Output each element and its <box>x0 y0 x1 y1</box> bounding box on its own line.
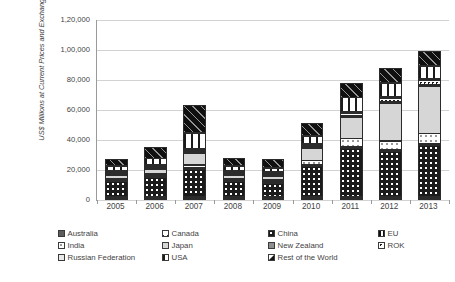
stacked-bar[interactable] <box>144 148 167 200</box>
bar-slot-2012 <box>371 20 410 200</box>
stacked-bar[interactable] <box>418 51 441 200</box>
bar-slot-2009 <box>253 20 292 200</box>
bar-segment-usa[interactable] <box>340 97 363 111</box>
legend-item-newzealand[interactable]: New Zealand <box>268 240 323 251</box>
bar-slot-2013 <box>410 20 449 200</box>
x-axis-label-2006: 2006 <box>135 202 174 220</box>
legend-swatch-eu-icon <box>378 230 385 237</box>
legend-label: USA <box>172 252 188 263</box>
bar-segment-china[interactable] <box>262 183 285 197</box>
stacked-bar[interactable] <box>340 83 363 200</box>
bar-segment-china[interactable] <box>418 145 441 197</box>
legend-swatch-australia-icon <box>58 230 65 237</box>
stacked-bar[interactable] <box>379 69 402 200</box>
bar-segment-china[interactable] <box>183 169 206 197</box>
chart-legend: AustraliaCanadaChinaEUIndiaJapanNew Zeal… <box>30 228 448 270</box>
bar-segment-china[interactable] <box>105 181 128 197</box>
bar-segment-australia[interactable] <box>301 198 324 200</box>
bar-segment-australia[interactable] <box>183 198 206 200</box>
legend-item-japan[interactable]: Japan <box>162 240 193 251</box>
bar-slot-2011 <box>332 20 371 200</box>
bar-slot-2010 <box>293 20 332 200</box>
stacked-bar[interactable] <box>223 159 246 201</box>
bar-slot-2007 <box>175 20 214 200</box>
x-axis-tick-labels: 200520062007200820092010201120122013 <box>96 202 448 220</box>
bar-segment-australia[interactable] <box>262 198 285 200</box>
legend-label: Russian Federation <box>68 252 136 263</box>
bar-segment-china[interactable] <box>379 151 402 197</box>
y-axis-tick-label: 1,20,000 <box>30 15 90 24</box>
bar-segment-australia[interactable] <box>105 198 128 200</box>
legend-swatch-china-icon <box>268 230 275 237</box>
legend-item-eu[interactable]: EU <box>378 228 398 239</box>
bar-segment-japan[interactable] <box>301 148 324 161</box>
x-axis-tick <box>449 200 450 204</box>
legend-label: Rest of the World <box>278 252 338 263</box>
x-axis-label-2013: 2013 <box>409 202 448 220</box>
legend-label: Japan <box>172 240 193 251</box>
gridline <box>97 200 449 201</box>
legend-swatch-rok-icon <box>378 242 385 249</box>
bar-series-group <box>97 20 449 200</box>
chart-container: US$ Millions at Current Prices and Excha… <box>0 0 455 282</box>
legend-label: New Zealand <box>278 240 324 251</box>
bar-segment-row[interactable] <box>183 105 206 133</box>
bar-segment-australia[interactable] <box>223 198 246 200</box>
x-axis-label-2012: 2012 <box>370 202 409 220</box>
y-axis-tick-label: 80,000 <box>30 75 90 84</box>
legend-label: EU <box>388 228 399 239</box>
bar-slot-2006 <box>136 20 175 200</box>
bar-segment-china[interactable] <box>340 148 363 198</box>
legend-swatch-usa-icon <box>162 254 169 261</box>
legend-item-india[interactable]: India <box>58 240 84 251</box>
legend-label: ROK <box>388 240 405 251</box>
bar-segment-row[interactable] <box>301 123 324 136</box>
bar-segment-australia[interactable] <box>144 198 167 200</box>
stacked-bar[interactable] <box>105 159 128 200</box>
bar-segment-usa[interactable] <box>144 158 167 165</box>
bar-segment-australia[interactable] <box>379 198 402 200</box>
bar-segment-usa[interactable] <box>183 133 206 149</box>
legend-item-china[interactable]: China <box>268 228 298 239</box>
legend-swatch-row-icon <box>268 254 275 261</box>
legend-item-russia[interactable]: Russian Federation <box>58 252 135 263</box>
bar-segment-row[interactable] <box>340 83 363 98</box>
stacked-bar[interactable] <box>301 123 324 200</box>
y-axis-tick-label: 40,000 <box>30 135 90 144</box>
bar-slot-2008 <box>214 20 253 200</box>
bar-segment-usa[interactable] <box>262 168 285 173</box>
bar-segment-row[interactable] <box>379 68 402 83</box>
bar-segment-china[interactable] <box>223 181 246 197</box>
legend-item-australia[interactable]: Australia <box>58 228 98 239</box>
legend-item-usa[interactable]: USA <box>162 252 188 263</box>
bar-segment-usa[interactable] <box>418 66 441 80</box>
legend-label: India <box>68 240 85 251</box>
y-axis-tick-label: 20,000 <box>30 165 90 174</box>
bar-segment-australia[interactable] <box>340 198 363 200</box>
bar-segment-japan[interactable] <box>183 153 206 166</box>
bar-segment-row[interactable] <box>418 51 441 66</box>
legend-item-row[interactable]: Rest of the World <box>268 252 338 263</box>
bar-segment-china[interactable] <box>301 166 324 197</box>
stacked-bar[interactable] <box>183 106 206 200</box>
stacked-bar[interactable] <box>262 160 285 200</box>
bar-segment-japan[interactable] <box>418 86 441 134</box>
bar-segment-row[interactable] <box>144 147 167 158</box>
bar-segment-japan[interactable] <box>379 103 402 141</box>
legend-item-canada[interactable]: Canada <box>162 228 199 239</box>
x-axis-label-2007: 2007 <box>174 202 213 220</box>
bar-slot-2005 <box>97 20 136 200</box>
bar-segment-india[interactable] <box>418 133 441 144</box>
x-axis-label-2010: 2010 <box>292 202 331 220</box>
bar-segment-australia[interactable] <box>418 198 441 200</box>
bar-segment-china[interactable] <box>144 177 167 197</box>
bar-segment-usa[interactable] <box>379 83 402 97</box>
legend-item-rok[interactable]: ROK <box>378 240 404 251</box>
legend-swatch-newzealand-icon <box>268 242 275 249</box>
bar-segment-usa[interactable] <box>301 136 324 144</box>
bar-segment-usa[interactable] <box>105 166 128 171</box>
bar-segment-japan[interactable] <box>340 117 363 139</box>
legend-swatch-russia-icon <box>58 254 65 261</box>
bar-segment-usa[interactable] <box>223 166 246 171</box>
legend-label: Canada <box>172 228 199 239</box>
